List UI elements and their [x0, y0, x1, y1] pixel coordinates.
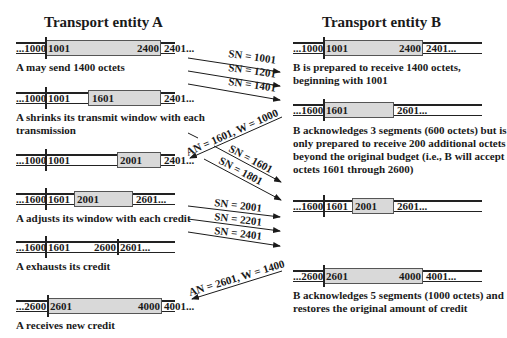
- arrow-sn-1601-tail: [188, 133, 198, 138]
- label-an-2601: AN = 2601, W = 1400: [187, 257, 286, 298]
